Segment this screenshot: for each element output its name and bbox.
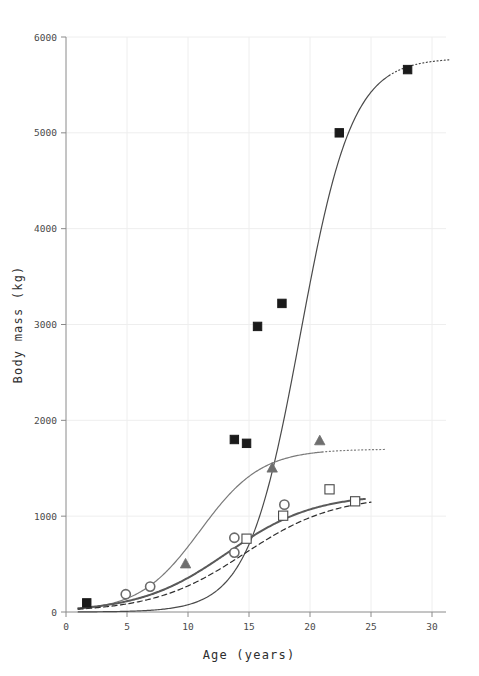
- data-point-filled-squares: [83, 599, 91, 607]
- data-point-filled-squares: [230, 435, 238, 443]
- data-point-open-squares: [279, 511, 288, 520]
- x-tick-label: 30: [426, 621, 438, 632]
- y-tick-label: 3000: [34, 319, 57, 330]
- y-tick-label: 4000: [34, 223, 57, 234]
- data-point-open-squares: [351, 497, 360, 506]
- data-point-open-circles: [121, 590, 130, 599]
- fit-curve-filled-squares: [78, 75, 389, 611]
- fit-curve-extension-filled-triangles: [322, 449, 385, 452]
- data-point-filled-squares: [253, 322, 261, 330]
- x-tick-label: 20: [304, 621, 316, 632]
- data-point-open-squares: [325, 485, 334, 494]
- data-point-open-squares: [242, 534, 251, 543]
- y-tick-label: 0: [51, 607, 57, 618]
- fit-curve-filled-triangles: [78, 452, 322, 609]
- data-point-open-circles: [230, 548, 239, 557]
- x-tick-label: 15: [243, 621, 254, 632]
- data-point-filled-squares: [335, 129, 343, 137]
- data-point-open-circles: [146, 582, 155, 591]
- data-point-filled-triangles: [315, 435, 325, 445]
- x-tick-label: 0: [63, 621, 69, 632]
- y-tick-label: 6000: [34, 32, 57, 43]
- data-point-open-circles: [230, 533, 239, 542]
- chart-figure: 0510152025300100020003000400050006000Age…: [0, 0, 479, 676]
- data-point-filled-squares: [278, 299, 286, 307]
- data-point-filled-squares: [242, 439, 250, 447]
- y-tick-label: 2000: [34, 415, 57, 426]
- x-tick-label: 10: [182, 621, 194, 632]
- data-point-open-circles: [280, 500, 289, 509]
- data-point-filled-squares: [403, 65, 411, 73]
- data-point-filled-triangles: [180, 558, 190, 568]
- x-tick-label: 5: [124, 621, 130, 632]
- y-axis-title: Body mass (kg): [11, 266, 25, 384]
- x-tick-label: 25: [365, 621, 376, 632]
- y-tick-label: 5000: [34, 127, 57, 138]
- data-point-filled-triangles: [267, 463, 277, 473]
- x-axis-title: Age (years): [203, 648, 296, 662]
- chart-canvas: 0510152025300100020003000400050006000Age…: [0, 0, 479, 676]
- y-tick-label: 1000: [34, 511, 57, 522]
- fit-curve-extension-filled-squares: [389, 60, 450, 76]
